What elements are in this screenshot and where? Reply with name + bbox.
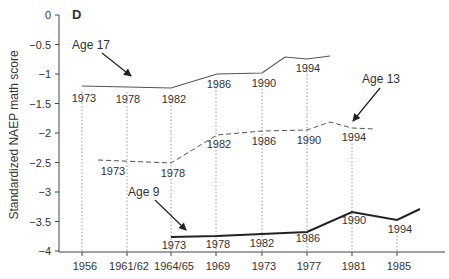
x-tick-label: 1973 <box>252 260 276 272</box>
axes <box>59 15 445 252</box>
point-label: 1990 <box>342 214 366 226</box>
x-tick-label: 1977 <box>297 260 321 272</box>
point-label: 1994 <box>296 62 320 74</box>
series-age-9: 1973 1978 1982 1986 1990 1994 Age 9 <box>128 185 420 251</box>
arrow-icon <box>102 53 131 76</box>
panel-label: D <box>72 7 81 22</box>
point-label: 1994 <box>388 223 412 235</box>
x-tick-label: 1985 <box>387 260 411 272</box>
point-label: 1978 <box>116 93 140 105</box>
point-label: 1990 <box>252 77 276 89</box>
point-label: 1973 <box>101 165 125 177</box>
y-tick-label: −0.5 <box>29 39 51 51</box>
point-label: 1978 <box>161 167 185 179</box>
arrow-icon <box>353 88 380 121</box>
y-tick-label: −2.5 <box>29 157 51 169</box>
y-tick-label: 0 <box>45 9 51 21</box>
y-tick-label: −3.5 <box>29 216 51 228</box>
series-age-13: 1973 1978 1982 1986 1990 1994 Age 13 <box>98 72 400 179</box>
x-tick-label: 1956 <box>73 260 97 272</box>
y-ticks: 0 −0.5 −1 −1.5 −2 −2.5 −3 −3.5 −4 <box>29 9 59 257</box>
age-9-annotation: Age 9 <box>128 185 160 199</box>
point-label: 1982 <box>250 237 274 249</box>
age-13-annotation: Age 13 <box>362 72 400 86</box>
point-label: 1973 <box>72 92 96 104</box>
series-age-17: 1973 1978 1982 1986 1990 1994 Age 17 <box>72 38 330 105</box>
x-tick-label: 1961/62 <box>109 260 149 272</box>
x-tick-label: 1969 <box>206 260 230 272</box>
y-tick-label: −1.5 <box>29 98 51 110</box>
point-label: 1973 <box>162 239 186 251</box>
x-ticks: 1956 1961/62 1964/65 1969 1973 1977 1981… <box>73 252 411 272</box>
point-label: 1982 <box>207 138 231 150</box>
point-label: 1986 <box>296 232 320 244</box>
point-label: 1994 <box>342 131 366 143</box>
chart-svg: D Standardized NAEP math score 0 −0.5 −1… <box>0 0 449 279</box>
y-tick-label: −1 <box>38 68 51 80</box>
point-label: 1986 <box>252 135 276 147</box>
age-17-annotation: Age 17 <box>72 38 110 52</box>
y-axis-label: Standardized NAEP math score <box>7 50 21 220</box>
y-tick-label: −3 <box>38 186 51 198</box>
x-tick-label: 1964/65 <box>154 260 194 272</box>
point-label: 1982 <box>162 93 186 105</box>
point-label: 1978 <box>206 238 230 250</box>
point-label: 1990 <box>297 134 321 146</box>
naep-math-chart: D Standardized NAEP math score 0 −0.5 −1… <box>0 0 449 279</box>
point-label: 1986 <box>207 78 231 90</box>
y-tick-label: −4 <box>38 245 51 257</box>
x-tick-label: 1981 <box>342 260 366 272</box>
y-tick-label: −2 <box>38 127 51 139</box>
